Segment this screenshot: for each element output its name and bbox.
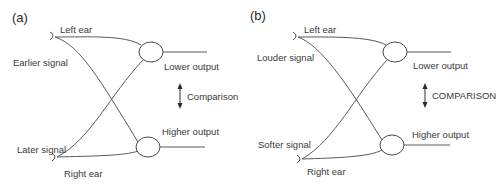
lower-coincidence-node <box>380 135 404 155</box>
right-ear-to-lower-node-wire <box>57 151 138 157</box>
bottom-ear-label: Right ear <box>307 166 346 177</box>
right-ear-to-upper-node-wire <box>57 60 143 157</box>
bottom-ear-label: Right ear <box>64 168 103 179</box>
bottom-signal-label: Softer signal <box>258 139 311 150</box>
top-signal-label: Louder signal <box>257 52 314 63</box>
top-signal-label: Earlier signal <box>13 57 68 68</box>
top-ear-label: Left ear <box>60 24 92 35</box>
panel-a-label: (a) <box>12 10 28 25</box>
right-ear-icon <box>297 155 300 163</box>
top-output-label: Lower output <box>413 60 468 71</box>
comparison-label: Comparison <box>187 91 238 102</box>
right-ear-to-lower-node-wire <box>302 150 382 159</box>
panel-a: (a) Left ear Earlier signal Lower output… <box>12 10 238 179</box>
upper-coincidence-node <box>383 42 407 62</box>
upper-coincidence-node <box>139 42 163 62</box>
left-ear-icon <box>50 32 53 40</box>
binaural-comparison-diagram: (a) Left ear Earlier signal Lower output… <box>0 0 503 185</box>
top-ear-label: Left ear <box>304 24 336 35</box>
comparison-arrow-icon <box>423 83 428 108</box>
right-ear-to-upper-node-wire <box>302 60 387 159</box>
left-ear-to-lower-node-wire <box>55 37 138 142</box>
left-ear-icon <box>293 32 296 40</box>
panel-b: (b) Left ear Louder signal Lower output … <box>250 8 496 177</box>
comparison-label: COMPARISON <box>432 90 496 101</box>
comparison-arrow-icon <box>178 83 183 109</box>
left-ear-to-upper-node-wire <box>298 37 386 45</box>
top-output-label: Lower output <box>164 61 219 72</box>
bottom-output-label: Higher output <box>162 126 219 137</box>
bottom-signal-label: Later signal <box>17 144 66 155</box>
bottom-output-label: Higher output <box>412 129 469 140</box>
lower-coincidence-node <box>136 137 160 157</box>
panel-b-label: (b) <box>250 8 266 23</box>
